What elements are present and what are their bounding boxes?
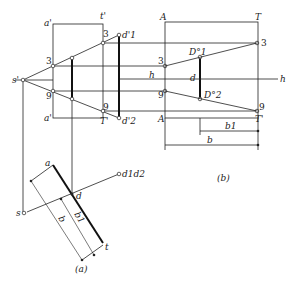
label-dim-b-b: b xyxy=(207,135,213,145)
dimension-dots xyxy=(30,130,260,262)
label-D2: D°2 xyxy=(203,90,222,100)
label-9-left-a: 9 xyxy=(46,91,52,101)
label-t-prime-bottom: T' xyxy=(100,116,108,126)
label-d1-prime: d'1 xyxy=(122,30,136,40)
label-3-left-b: 3 xyxy=(158,56,164,66)
label-9-left-b: 9 xyxy=(158,90,164,100)
caption-b: (b) xyxy=(217,173,230,183)
technical-drawing: a' t' a' T' s' 3 9 3 9 d'1 d'2 a t s d d… xyxy=(0,0,288,288)
label-T-top: T xyxy=(255,12,262,22)
label-h-right: h xyxy=(280,74,286,84)
label-A-bottom: A xyxy=(157,114,165,124)
label-d1d2: d1d2 xyxy=(122,169,145,179)
construction-points xyxy=(21,33,259,215)
label-d-b: d xyxy=(190,73,196,83)
label-3-right-a: 3 xyxy=(103,29,109,39)
label-s: s xyxy=(16,208,21,218)
label-a-prime-top: a' xyxy=(44,18,52,28)
label-D1: D°1 xyxy=(188,47,206,57)
label-A-top: A xyxy=(159,12,167,22)
label-9-right-b: 9 xyxy=(259,102,265,112)
perspective-construction-diagram: a' t' a' T' s' 3 9 3 9 d'1 d'2 a t s d d… xyxy=(0,0,288,288)
label-dim-b1-a: b1 xyxy=(72,210,86,225)
picture-plane-rect-a xyxy=(53,24,103,118)
label-h-left: h xyxy=(149,70,155,80)
label-T-bottom: T' xyxy=(255,114,263,124)
label-a-prime-bottom: a' xyxy=(44,113,52,123)
label-s-prime: s' xyxy=(12,75,19,85)
label-d2-prime: d'2 xyxy=(122,116,136,126)
label-t-prime-top: t' xyxy=(100,11,106,21)
label-t: t xyxy=(105,242,109,252)
caption-a: (a) xyxy=(75,264,88,274)
label-9-right-a: 9 xyxy=(103,102,109,112)
label-d: d xyxy=(76,191,82,201)
picture-plane-rect-b xyxy=(165,22,258,118)
label-dim-b1-b: b1 xyxy=(225,121,237,131)
label-3-left-a: 3 xyxy=(46,56,52,66)
label-a: a xyxy=(45,158,50,168)
label-3-right-b: 3 xyxy=(261,38,267,48)
